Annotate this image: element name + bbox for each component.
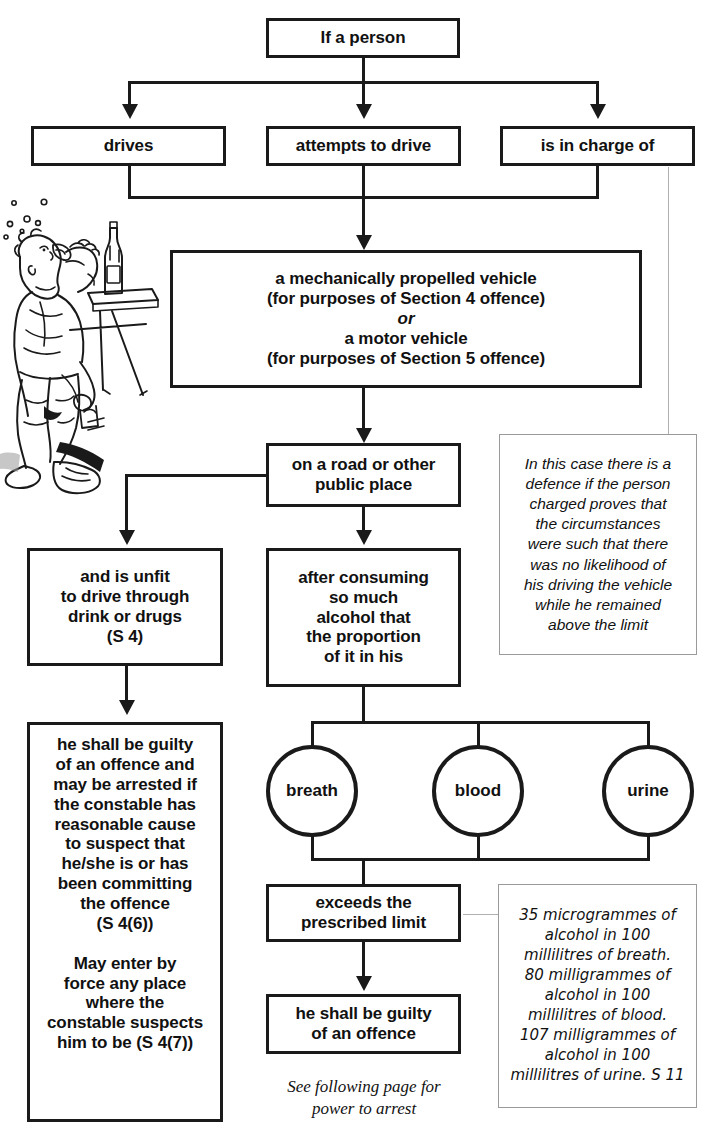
node-attempts-to-drive[interactable]: attempts to drive	[266, 126, 461, 166]
note-defence: In this case there is a defence if the p…	[499, 434, 697, 655]
node-label: attempts to drive	[273, 136, 454, 156]
node-on-a-road[interactable]: on a road or other public place	[266, 443, 461, 507]
connector-to-urine	[647, 721, 650, 746]
arrow-to-afterconsuming	[356, 530, 372, 545]
note-line: while he remained	[503, 595, 693, 615]
note-line: charged proves that	[503, 494, 693, 514]
node-label: is in charge of	[507, 136, 688, 156]
node-line: on a road or other	[273, 455, 454, 475]
arrow-to-guilty-s4	[119, 700, 135, 715]
note-line: the circumstances	[503, 514, 693, 534]
node-line-spacer	[34, 934, 216, 954]
note-line: his driving the vehicle	[503, 575, 693, 595]
node-line: or	[177, 309, 635, 329]
node-guilty-section5[interactable]: he shall be guilty of an offence	[266, 994, 461, 1054]
node-breath[interactable]: breath	[266, 745, 358, 837]
caption-line: power to arrest	[255, 1098, 473, 1120]
caption-see-following-page: See following page for power to arrest	[255, 1076, 473, 1120]
node-line: reasonable cause	[34, 815, 216, 835]
node-urine[interactable]: urine	[602, 745, 694, 837]
node-if-a-person[interactable]: If a person	[266, 18, 460, 58]
node-line: him to be (S 4(7))	[34, 1033, 216, 1053]
connector-to-breath	[311, 721, 314, 746]
node-line: a mechanically propelled vehicle	[177, 269, 635, 289]
node-line: alcohol that	[273, 608, 454, 628]
node-line: to suspect that	[34, 834, 216, 854]
note-line: alcohol in 100	[502, 926, 693, 946]
connector-samples-top-bus	[311, 721, 650, 724]
note-line: millilitres of blood.	[502, 1006, 693, 1026]
node-label: If a person	[273, 28, 453, 48]
note-line: alcohol in 100	[502, 986, 693, 1006]
node-line: public place	[273, 475, 454, 495]
node-is-in-charge-of[interactable]: is in charge of	[500, 126, 695, 166]
arrow-to-attempts	[356, 104, 372, 119]
connector-to-incharge	[596, 81, 599, 105]
node-line: been committing	[34, 874, 216, 894]
node-line: May enter by	[34, 954, 216, 974]
connector-to-attempts	[362, 81, 365, 105]
arrow-to-vehicle	[356, 235, 372, 250]
node-after-consuming[interactable]: after consuming so much alcohol that the…	[266, 548, 461, 687]
node-line: the constable has	[34, 795, 216, 815]
node-unfit-to-drive[interactable]: and is unfit to drive through drink or d…	[27, 548, 223, 666]
note-line: millilitres of urine. S 11	[502, 1066, 693, 1086]
caption-line: See following page for	[255, 1076, 473, 1098]
arrow-to-unfit	[119, 530, 135, 545]
node-line: prescribed limit	[273, 913, 454, 933]
node-line: (S 4(6))	[34, 914, 216, 934]
node-label: blood	[455, 781, 501, 801]
connector-exceeds-to-limits	[463, 914, 499, 915]
connector-to-drives	[128, 81, 131, 105]
connector-to-blood	[477, 721, 480, 746]
node-line: the offence	[34, 894, 216, 914]
node-line: to drive through	[34, 587, 216, 607]
arrow-to-drives	[122, 104, 138, 119]
node-line: (S 4)	[34, 627, 216, 647]
node-label: breath	[286, 781, 338, 801]
note-line: was no likelihood of	[503, 555, 693, 575]
connector-samples-to-exceeds	[362, 858, 365, 885]
node-line: so much	[273, 588, 454, 608]
node-exceeds-prescribed-limit[interactable]: exceeds the prescribed limit	[266, 884, 461, 942]
arrow-to-incharge	[590, 104, 606, 119]
node-line: he shall be guilty	[273, 1004, 454, 1024]
node-line: he shall be guilty	[34, 735, 216, 755]
note-line: alcohol in 100	[502, 1046, 693, 1066]
node-line: may be arrested if	[34, 775, 216, 795]
connector-ifperson-down	[362, 57, 365, 81]
note-line: were such that there	[503, 534, 693, 554]
node-line: exceeds the	[273, 893, 454, 913]
node-guilty-section4[interactable]: he shall be guilty of an offence and may…	[27, 722, 223, 1122]
connector-incharge-to-defence	[668, 167, 669, 441]
node-label: urine	[627, 781, 669, 801]
node-line: a motor vehicle	[177, 329, 635, 349]
node-line: force any place	[34, 974, 216, 994]
node-line: of it in his	[273, 647, 454, 667]
note-line: In this case there is a	[503, 454, 693, 474]
note-line: 80 milligrammes of	[502, 966, 693, 986]
node-line: of an offence and	[34, 755, 216, 775]
node-blood[interactable]: blood	[432, 745, 524, 837]
note-line: 35 microgrammes of	[502, 906, 693, 926]
flowchart-page: If a person drives attempts to drive is …	[0, 0, 714, 1128]
node-line: the proportion	[273, 627, 454, 647]
note-line: above the limit	[503, 615, 693, 635]
node-vehicle-definition[interactable]: a mechanically propelled vehicle (for pu…	[170, 250, 642, 388]
connector-afterconsuming-down	[362, 686, 365, 722]
node-line: after consuming	[273, 568, 454, 588]
drunk-man-drinking-at-bar-cartoon	[0, 190, 170, 510]
note-line: defence if the person	[503, 474, 693, 494]
node-line: where the	[34, 993, 216, 1013]
note-line: 107 milligrammes of	[502, 1026, 693, 1046]
connector-incharge-down	[596, 165, 599, 199]
node-line: of an offence	[273, 1024, 454, 1044]
node-drives[interactable]: drives	[31, 126, 226, 166]
node-label: drives	[38, 136, 219, 156]
node-line: constable suspects	[34, 1013, 216, 1033]
note-prescribed-limits: 35 microgrammes of alcohol in 100 millil…	[498, 884, 697, 1108]
node-line: he/she is or has	[34, 854, 216, 874]
arrow-to-guilty-s5	[356, 976, 372, 991]
connector-merge-to-vehicle	[362, 165, 365, 244]
node-line: and is unfit	[34, 567, 216, 587]
